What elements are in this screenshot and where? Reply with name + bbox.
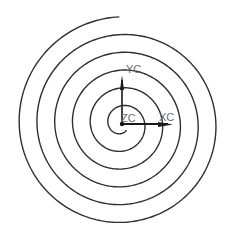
yc-arrowhead-icon xyxy=(120,75,124,90)
spiral-diagram: YC ZC XC xyxy=(0,0,229,231)
zc-label: ZC xyxy=(121,112,136,124)
xc-label: XC xyxy=(159,111,174,123)
yc-label: YC xyxy=(126,63,141,75)
spiral-curve xyxy=(19,17,216,223)
